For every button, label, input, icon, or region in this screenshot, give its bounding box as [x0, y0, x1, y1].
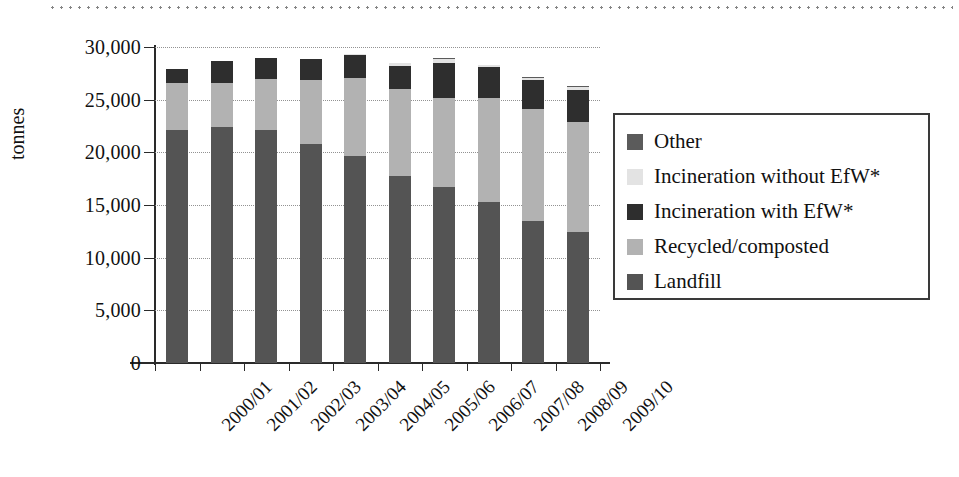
- bar-segment: [300, 59, 322, 80]
- bar-segment: [344, 55, 366, 77]
- bar-segment: [300, 144, 322, 363]
- chart-figure: tonnes 05,00010,00015,00020,00025,00030,…: [0, 0, 959, 477]
- bar-segment: [567, 87, 589, 90]
- y-tick-label: 0: [131, 352, 141, 375]
- bar-segment: [522, 78, 544, 80]
- bar-2007-08: [478, 65, 500, 363]
- recycled-composted-swatch: [627, 239, 643, 255]
- legend-item-label: Incineration with EfW*: [654, 201, 853, 222]
- x-tick-mark: [556, 362, 557, 371]
- bar-segment: [389, 63, 411, 66]
- bar-segment: [166, 130, 188, 363]
- x-tick-mark: [333, 362, 334, 371]
- x-tick-mark: [378, 362, 379, 371]
- bar-segment: [522, 77, 544, 78]
- y-axis-title: tonnes: [6, 108, 29, 160]
- x-tick-mark: [155, 362, 156, 371]
- legend-item-label: Recycled/composted: [654, 236, 829, 257]
- legend-item-label: Incineration without EfW*: [654, 166, 880, 187]
- bar-2005-06: [389, 63, 411, 363]
- bar-2008-09: [522, 77, 544, 364]
- legend-item: Landfill: [627, 264, 916, 299]
- x-tick-mark: [289, 362, 290, 371]
- bar-segment: [166, 83, 188, 130]
- bar-segment: [433, 187, 455, 363]
- bar-segment: [567, 122, 589, 233]
- bar-segment: [300, 80, 322, 144]
- bar-segment: [389, 89, 411, 175]
- x-tick-mark: [422, 362, 423, 371]
- y-tick-label: 15,000: [85, 194, 141, 217]
- y-tick-mark: [144, 205, 155, 206]
- y-tick-label: 20,000: [85, 141, 141, 164]
- plot-area: 05,00010,00015,00020,00025,00030,000: [155, 47, 600, 363]
- bar-segment: [344, 54, 366, 55]
- bar-segment: [567, 86, 589, 87]
- legend-item: Incineration without EfW*: [627, 159, 916, 194]
- bar-segment: [389, 176, 411, 363]
- legend-item: Incineration with EfW*: [627, 194, 916, 229]
- y-tick-label: 5,000: [95, 299, 141, 322]
- bar-segment: [478, 67, 500, 98]
- chart-legend: OtherIncineration without EfW*Incinerati…: [613, 113, 930, 300]
- legend-item-label: Other: [654, 131, 702, 152]
- y-tick-mark: [144, 258, 155, 259]
- scan-artifact-dotted-rule: [48, 6, 953, 9]
- landfill-swatch: [627, 274, 643, 290]
- bar-segment: [255, 79, 277, 131]
- bar-2003-04: [300, 59, 322, 363]
- legend-item-label: Landfill: [654, 271, 722, 292]
- legend-item: Other: [627, 124, 916, 159]
- x-tick-mark: [511, 362, 512, 371]
- bar-segment: [344, 156, 366, 364]
- bar-segment: [433, 63, 455, 98]
- bar-segment: [567, 90, 589, 122]
- y-tick-label: 25,000: [85, 88, 141, 111]
- bar-segment: [255, 130, 277, 363]
- bar-2002-03: [255, 58, 277, 363]
- x-tick-mark: [467, 362, 468, 371]
- x-tick-mark: [600, 362, 601, 371]
- incineration-with-efw-swatch: [627, 204, 643, 220]
- bar-segment: [211, 83, 233, 127]
- other-swatch: [627, 134, 643, 150]
- bar-segment: [478, 98, 500, 202]
- bar-segment: [522, 80, 544, 109]
- bar-2001-02: [211, 61, 233, 363]
- bar-segment: [344, 78, 366, 156]
- y-tick-label: 10,000: [85, 246, 141, 269]
- bar-segment: [478, 202, 500, 363]
- bar-segment: [522, 109, 544, 221]
- bar-segment: [478, 65, 500, 67]
- bar-segment: [255, 58, 277, 79]
- bar-segment: [389, 66, 411, 89]
- incineration-without-efw-swatch: [627, 169, 643, 185]
- y-tick-mark: [144, 363, 155, 364]
- x-tick-mark: [244, 362, 245, 371]
- legend-item: Recycled/composted: [627, 229, 916, 264]
- y-tick-mark: [144, 100, 155, 101]
- bar-segment: [433, 59, 455, 63]
- bar-2004-05: [344, 54, 366, 363]
- y-tick-mark: [144, 47, 155, 48]
- bar-segment: [567, 232, 589, 363]
- bar-segment: [433, 98, 455, 188]
- bar-segment: [211, 127, 233, 363]
- gridline: [155, 47, 600, 48]
- y-tick-label: 30,000: [85, 36, 141, 59]
- bar-segment: [433, 58, 455, 59]
- bar-2009-10: [567, 86, 589, 363]
- bar-segment: [211, 61, 233, 83]
- y-tick-mark: [144, 152, 155, 153]
- bar-2006-07: [433, 58, 455, 363]
- bar-segment: [166, 69, 188, 83]
- y-tick-mark: [144, 310, 155, 311]
- bar-2000-01: [166, 69, 188, 363]
- x-tick-mark: [200, 362, 201, 371]
- bar-segment: [522, 221, 544, 363]
